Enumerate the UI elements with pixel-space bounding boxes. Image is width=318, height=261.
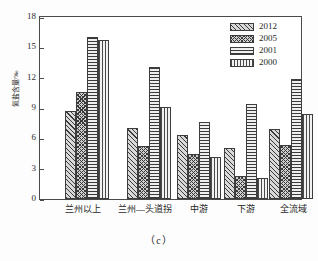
- y-axis-tick: [40, 78, 44, 79]
- chart-legend: 2012200520012000: [228, 19, 298, 71]
- y-axis-tick-label: 3: [10, 164, 36, 173]
- legend-label: 2012: [259, 22, 277, 31]
- legend-item-2005: 2005: [230, 33, 296, 44]
- y-axis-tick-label: 0: [10, 194, 36, 203]
- y-axis-tick: [40, 139, 44, 140]
- y-axis-tick: [40, 169, 44, 170]
- y-axis-tick-label: 6: [10, 133, 36, 142]
- figure-caption: （c）: [0, 232, 318, 247]
- y-axis-tick-label: 15: [10, 42, 36, 51]
- legend-item-2001: 2001: [230, 45, 296, 56]
- x-axis-label-3: 中游: [190, 205, 208, 215]
- figure-panel-c: 氮盐含量/‰ 0369121518 2012200520012000 兰州以上兰…: [0, 0, 318, 261]
- y-axis-tick: [40, 109, 44, 110]
- legend-label: 2005: [259, 34, 277, 43]
- x-axis-category-labels: 兰州以上兰州—头道拐中游下游全流域: [39, 205, 302, 221]
- x-axis-label-2: 兰州—头道拐: [118, 205, 172, 215]
- legend-item-2012: 2012: [230, 21, 296, 32]
- y-axis-tick-label: 12: [10, 73, 36, 82]
- bar-2000-全流域: [302, 114, 313, 199]
- y-axis-tick: [40, 18, 44, 19]
- y-axis-tick-label: 9: [10, 103, 36, 112]
- legend-swatch-diagonal-hatch-icon: [230, 23, 254, 31]
- y-axis-tick: [40, 48, 44, 49]
- y-axis-label: 氮盐含量/‰: [10, 54, 20, 124]
- y-axis-tick: [40, 200, 44, 201]
- legend-swatch-cross-hatch-icon: [230, 35, 254, 43]
- legend-label: 2001: [259, 46, 277, 55]
- y-axis-tick-label: 18: [10, 12, 36, 21]
- legend-label: 2000: [259, 58, 277, 67]
- legend-item-2000: 2000: [230, 57, 296, 68]
- x-axis-label-5: 全流域: [280, 205, 307, 215]
- legend-swatch-vertical-lines-icon: [230, 59, 254, 67]
- x-axis-label-1: 兰州以上: [65, 205, 101, 215]
- x-axis-label-4: 下游: [237, 205, 255, 215]
- legend-swatch-horizontal-lines-icon: [230, 47, 254, 55]
